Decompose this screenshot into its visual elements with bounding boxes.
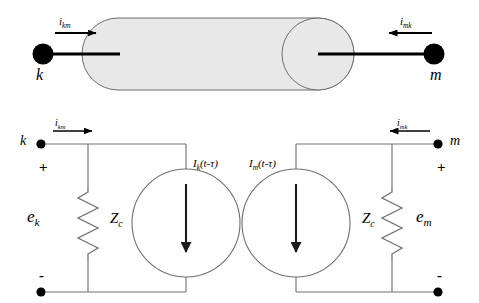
node-dot-m-bottom xyxy=(433,287,442,296)
circuit-current-label-ikm: ikm xyxy=(55,118,65,131)
figure-canvas: k m ikm imk k m ikm imk + - + - ek em Zc… xyxy=(0,0,479,303)
polarity-plus-right: + xyxy=(437,160,446,175)
current-source-ik xyxy=(132,169,240,277)
node-dot-k-top xyxy=(36,139,45,148)
circuit-node-label-k: k xyxy=(20,134,26,148)
cylinder-terminal-label-m: m xyxy=(430,67,442,83)
polarity-minus-right: - xyxy=(437,268,442,283)
circuit-node-label-m: m xyxy=(450,134,460,148)
cylinder-current-label-ikm: ikm xyxy=(59,16,71,30)
diagram-svg xyxy=(0,0,479,303)
current-source-im xyxy=(242,169,350,277)
source-label-im: Im(t-τ) xyxy=(249,158,276,172)
resistor-zc-right xyxy=(382,186,402,262)
node-dot-k-bottom xyxy=(36,287,45,296)
impedance-label-zc-left: Zc xyxy=(110,211,123,229)
resistor-zc-left xyxy=(78,186,98,262)
node-dot-m-top xyxy=(433,139,442,148)
cylinder-current-label-imk: imk xyxy=(400,16,412,30)
cylinder-terminal-label-k: k xyxy=(36,67,43,83)
voltage-label-ek: ek xyxy=(27,208,40,229)
voltage-label-em: em xyxy=(416,208,432,229)
polarity-minus-left: - xyxy=(39,268,44,283)
polarity-plus-left: + xyxy=(39,160,48,175)
impedance-label-zc-right: Zc xyxy=(362,211,375,229)
circuit-current-label-imk: imk xyxy=(397,118,407,131)
source-label-ik: Ik(t-τ) xyxy=(193,158,218,172)
